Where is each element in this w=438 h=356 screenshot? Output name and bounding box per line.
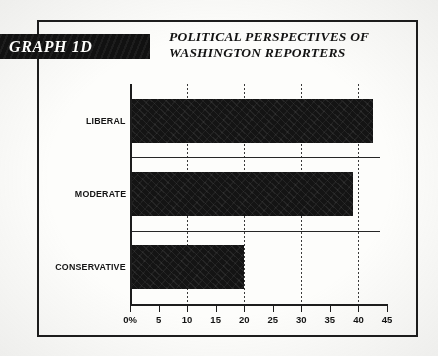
bar-moderate <box>130 172 353 216</box>
chart-title-line-1: POLITICAL PERSPECTIVES OF <box>169 29 369 45</box>
x-tick-label: 30 <box>296 314 307 325</box>
plot-area <box>130 84 387 304</box>
row-separator <box>130 157 380 158</box>
x-tick-label: 35 <box>325 314 336 325</box>
x-tick-label: 25 <box>267 314 278 325</box>
bar-conservative <box>130 245 244 289</box>
graph-number-label: GRAPH 1D <box>0 38 92 56</box>
x-tick-label: 45 <box>382 314 393 325</box>
category-label-column: LIBERALMODERATECONSERVATIVE <box>20 84 126 305</box>
category-label-moderate: MODERATE <box>75 188 126 199</box>
bar-liberal <box>130 99 373 143</box>
x-tick <box>216 306 217 312</box>
x-tick <box>273 306 274 312</box>
x-tick <box>387 306 388 312</box>
chart-page: GRAPH 1D POLITICAL PERSPECTIVES OF WASHI… <box>0 0 438 356</box>
x-tick-label: 5 <box>156 314 161 325</box>
x-tick-label: 0% <box>123 314 137 325</box>
x-tick <box>244 306 245 312</box>
x-tick <box>187 306 188 312</box>
x-tick <box>358 306 359 312</box>
x-axis-line <box>130 304 388 306</box>
chart-title: POLITICAL PERSPECTIVES OF WASHINGTON REP… <box>169 29 369 61</box>
x-tick <box>130 306 131 312</box>
x-tick-label: 40 <box>353 314 364 325</box>
x-tick-label: 20 <box>239 314 250 325</box>
chart-title-line-2: WASHINGTON REPORTERS <box>169 45 369 61</box>
x-tick <box>159 306 160 312</box>
row-separator <box>130 231 380 232</box>
category-label-conservative: CONSERVATIVE <box>56 261 126 272</box>
graph-number-banner: GRAPH 1D <box>0 34 150 59</box>
x-tick-label: 15 <box>210 314 221 325</box>
x-tick <box>330 306 331 312</box>
x-tick-label: 10 <box>182 314 193 325</box>
x-tick <box>301 306 302 312</box>
y-axis-line <box>130 84 132 305</box>
category-label-liberal: LIBERAL <box>86 115 126 126</box>
